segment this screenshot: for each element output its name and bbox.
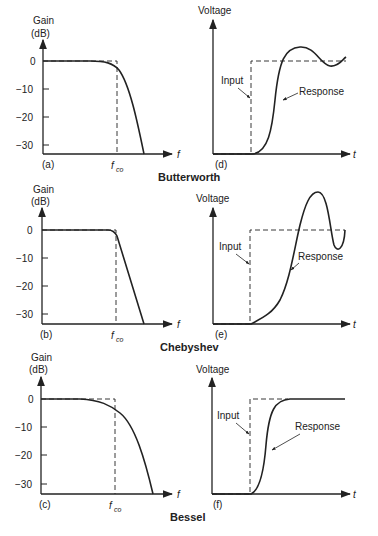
gain-curve <box>43 61 144 154</box>
y-axis-label: Voltage <box>196 193 230 204</box>
tick-minus20: −20 <box>16 112 33 123</box>
tick-minus30: −30 <box>16 309 33 320</box>
y-axis-label: Gain <box>33 15 54 26</box>
input-pointer <box>236 423 249 434</box>
cutoff-label: f <box>111 330 115 341</box>
response-label: Response <box>295 421 340 432</box>
y-axis-label: Voltage <box>198 5 232 16</box>
bessel-step-plot: Voltage t Input Response (f) <box>196 364 357 510</box>
y-axis-label: Gain <box>31 352 52 363</box>
tick-minus30: −30 <box>15 479 32 490</box>
group-title-bessel: Bessel <box>170 511 205 523</box>
tick-minus10: −10 <box>15 422 32 433</box>
bessel-frequency-plot: Gain (dB) f 0 −10 −20 −30 (c) f co <box>15 352 181 513</box>
gain-curve <box>41 399 153 494</box>
tick-0: 0 <box>27 225 33 236</box>
y-axis-unit: (dB) <box>31 196 50 207</box>
cutoff-subscript: co <box>114 506 122 513</box>
x-axis-label: t <box>353 149 357 160</box>
y-axis-unit: (dB) <box>29 364 48 375</box>
y-axis-label: Voltage <box>196 364 230 375</box>
input-pointer <box>236 254 249 264</box>
input-pointer <box>238 88 250 98</box>
response-curve <box>213 47 346 154</box>
chebyshev-frequency-plot: Gain (dB) f 0 −10 −20 −30 (b) f co <box>16 184 181 343</box>
cutoff-subscript: co <box>116 166 124 173</box>
tick-0: 0 <box>28 394 34 405</box>
x-axis-label: f <box>177 149 181 160</box>
panel-label: (c) <box>39 499 51 510</box>
cutoff-subscript: co <box>116 336 124 343</box>
tick-minus10: −10 <box>16 84 33 95</box>
group-title-chebyshev: Chebyshev <box>160 341 220 353</box>
input-label: Input <box>217 410 239 421</box>
input-label: Input <box>219 241 241 252</box>
tick-minus10: −10 <box>16 253 33 264</box>
x-axis-label: f <box>177 319 181 330</box>
response-label: Response <box>299 86 344 97</box>
ideal-response <box>43 61 117 154</box>
panel-label: (e) <box>215 329 227 340</box>
x-axis-label: f <box>177 489 181 500</box>
ideal-response <box>42 230 116 324</box>
tick-0: 0 <box>30 56 36 67</box>
tick-minus20: −20 <box>15 450 32 461</box>
response-pointer <box>272 434 300 450</box>
x-axis-label: t <box>353 489 357 500</box>
cutoff-label: f <box>109 500 113 511</box>
chebyshev-step-plot: Voltage t Input Response (e) <box>196 192 357 340</box>
y-axis-label: Gain <box>33 184 54 195</box>
tick-minus30: −30 <box>16 140 33 151</box>
cutoff-label: f <box>111 160 115 171</box>
panel-label: (f) <box>213 499 222 510</box>
panel-label: (a) <box>42 159 54 170</box>
group-title-butterworth: Butterworth <box>158 171 221 183</box>
gain-curve <box>42 230 144 324</box>
ideal-response <box>41 399 115 494</box>
butterworth-step-plot: Voltage t Input Response (d) <box>198 5 357 170</box>
y-axis-unit: (dB) <box>31 28 50 39</box>
filter-comparison-diagram: Gain (dB) f 0 −10 −20 −30 (a) f co Volta… <box>0 0 378 536</box>
response-pointer <box>283 93 298 100</box>
butterworth-frequency-plot: Gain (dB) f 0 −10 −20 −30 (a) f co <box>16 15 181 173</box>
tick-minus20: −20 <box>16 281 33 292</box>
x-axis-label: t <box>353 319 357 330</box>
input-label: Input <box>221 75 243 86</box>
response-label: Response <box>298 251 343 262</box>
panel-label: (b) <box>40 329 52 340</box>
panel-label: (d) <box>215 159 227 170</box>
